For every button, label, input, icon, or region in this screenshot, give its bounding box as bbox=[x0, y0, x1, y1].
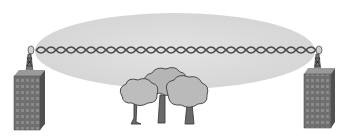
right-building-icon bbox=[304, 68, 335, 128]
left-building-icon bbox=[14, 70, 45, 130]
wireless-link-diagram bbox=[0, 0, 351, 140]
left-antenna-tower-icon bbox=[26, 46, 34, 72]
